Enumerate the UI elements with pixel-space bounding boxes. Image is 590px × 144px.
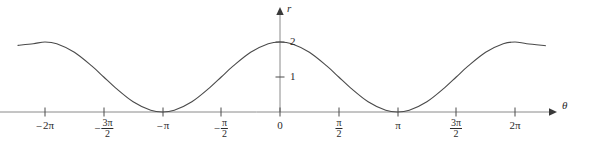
x-tick-label-neg-3pi-over-2: −3π2 (94, 118, 113, 139)
x-tick-denominator: 2 (450, 129, 462, 139)
x-tick-label-neg-2pi: −2π (36, 120, 54, 132)
y-axis-arrowhead (276, 7, 283, 15)
x-tick-main: π (164, 119, 170, 131)
x-tick-fraction: 3π2 (102, 118, 114, 139)
x-tick-label-2pi: 2π (509, 120, 520, 132)
x-tick-label-3pi-over-2: 3π2 (450, 118, 462, 139)
y-axis-label: r (287, 2, 291, 14)
x-tick-label-origin: 0 (277, 120, 283, 132)
x-tick-fraction: π2 (335, 118, 342, 139)
x-tick-denominator: 2 (221, 129, 228, 139)
x-tick-label-pi-over-2: π2 (335, 118, 342, 139)
x-tick-denominator: 2 (335, 129, 342, 139)
x-tick-fraction: 3π2 (450, 118, 462, 139)
polar-function-cartesian-plot: θ r 1 2 −2π −3π2 −π −π2 0 π2 π 3π2 2π (0, 0, 590, 144)
x-tick-sign: − (94, 123, 101, 135)
x-tick-denominator: 2 (102, 129, 114, 139)
x-tick-label-neg-pi: −π (157, 120, 170, 132)
x-axis-arrowhead (549, 108, 557, 116)
x-tick-sign: − (214, 123, 221, 135)
y-tick-label-2: 2 (290, 36, 296, 48)
x-tick-fraction: π2 (221, 118, 228, 139)
x-tick-label-pi: π (395, 120, 401, 132)
x-tick-label-neg-pi-over-2: −π2 (214, 118, 228, 139)
x-axis-label: θ (562, 99, 567, 111)
y-tick-label-1: 1 (290, 71, 296, 83)
x-tick-main: 2π (43, 119, 54, 131)
